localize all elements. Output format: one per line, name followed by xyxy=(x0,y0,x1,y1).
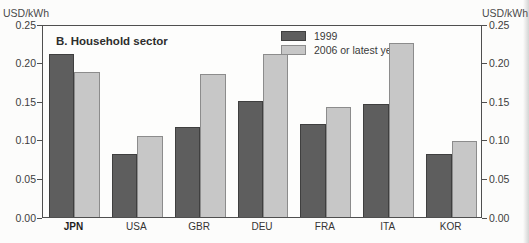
bar-2006-GBR xyxy=(200,74,225,217)
y-tick-label-left: 0.15 xyxy=(6,97,36,108)
legend-item-1999: 1999 xyxy=(281,29,405,42)
legend-swatch-1999 xyxy=(281,31,306,41)
y-tick-right xyxy=(482,140,487,141)
y-tick-label-right: 0.20 xyxy=(489,58,509,69)
bar-2006-JPN xyxy=(74,72,99,217)
bar-2006-DEU xyxy=(263,54,288,217)
bar-1999-USA xyxy=(112,154,137,217)
x-axis-label-JPN: JPN xyxy=(42,221,105,233)
legend-item-2006: 2006 or latest year2 xyxy=(281,43,405,56)
y-tick-label-right: 0.10 xyxy=(489,135,509,146)
legend-label-1999: 1999 xyxy=(314,30,337,42)
chart-figure: USD/kWh USD/kWh B. Household sector 1999… xyxy=(0,0,529,243)
x-axis-label-ITA: ITA xyxy=(356,221,419,233)
bar-1999-FRA xyxy=(300,124,325,217)
bar-2006-KOR xyxy=(452,141,477,217)
scan-edge-shadow xyxy=(523,0,529,243)
chart-title: B. Household sector xyxy=(56,35,168,47)
bar-2006-USA xyxy=(137,136,162,217)
bar-1999-DEU xyxy=(238,101,263,217)
legend-swatch-2006 xyxy=(281,45,306,55)
bar-1999-KOR xyxy=(426,154,451,217)
y-tick-label-left: 0.00 xyxy=(6,213,36,224)
y-tick-label-right: 0.15 xyxy=(489,97,509,108)
y-tick-right xyxy=(482,218,487,219)
bar-1999-GBR xyxy=(175,127,200,217)
bar-2006-FRA xyxy=(326,107,351,217)
y-tick-left xyxy=(37,179,42,180)
y-tick-right xyxy=(482,25,487,26)
x-axis-label-DEU: DEU xyxy=(231,221,294,233)
y-tick-right xyxy=(482,179,487,180)
y-tick-left xyxy=(37,63,42,64)
legend: 1999 2006 or latest year2 xyxy=(281,29,405,57)
y-tick-label-left: 0.20 xyxy=(6,58,36,69)
y-tick-left xyxy=(37,102,42,103)
y-axis-title-left: USD/kWh xyxy=(3,8,49,19)
y-axis-title-right: USD/kWh xyxy=(482,8,528,19)
x-axis-label-FRA: FRA xyxy=(293,221,356,233)
x-axis-label-GBR: GBR xyxy=(168,221,231,233)
x-axis-label-KOR: KOR xyxy=(419,221,482,233)
y-tick-label-right: 0.00 xyxy=(489,213,509,224)
y-tick-left xyxy=(37,218,42,219)
y-tick-left xyxy=(37,25,42,26)
bar-1999-ITA xyxy=(363,104,388,217)
y-tick-label-left: 0.05 xyxy=(6,174,36,185)
bar-2006-ITA xyxy=(389,43,414,217)
y-tick-right xyxy=(482,63,487,64)
y-tick-label-right: 0.05 xyxy=(489,174,509,185)
x-axis-label-USA: USA xyxy=(105,221,168,233)
y-tick-left xyxy=(37,140,42,141)
plot-area: B. Household sector 1999 2006 or latest … xyxy=(42,25,482,218)
y-tick-label-left: 0.25 xyxy=(6,20,36,31)
y-tick-label-left: 0.10 xyxy=(6,135,36,146)
legend-text-1999: 1999 xyxy=(314,30,337,42)
bar-1999-JPN xyxy=(49,54,74,217)
y-tick-label-right: 0.25 xyxy=(489,20,509,31)
y-tick-right xyxy=(482,102,487,103)
